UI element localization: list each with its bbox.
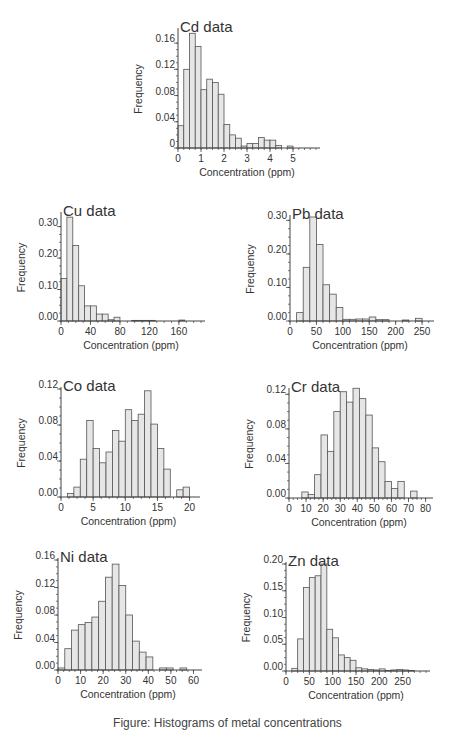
chart-title: Pb data xyxy=(292,205,344,222)
y-axis-label: Frequency xyxy=(12,589,24,639)
histogram-bar xyxy=(236,138,242,148)
bars xyxy=(292,564,414,671)
chart-title: Cu data xyxy=(63,202,116,219)
y-tick-label: 0.12 xyxy=(156,59,176,70)
y-axis-label: Frequency xyxy=(15,417,27,467)
histogram-bar xyxy=(67,217,73,321)
histogram-bar xyxy=(201,90,207,148)
y-tick-label: 0.12 xyxy=(36,578,56,589)
histogram-bar xyxy=(327,451,333,498)
x-tick-label: 120 xyxy=(141,326,158,337)
histogram-bar xyxy=(125,410,131,497)
x-tick-label: 100 xyxy=(334,326,351,337)
histogram-bar xyxy=(224,124,230,148)
histogram-bar xyxy=(303,267,310,321)
x-tick-label: 2 xyxy=(221,153,227,164)
x-axis-label: Concentration (ppm) xyxy=(81,515,177,527)
histogram-bar xyxy=(114,317,120,321)
histogram-bar xyxy=(308,495,314,498)
figure-caption: Figure: Histograms of metal concentratio… xyxy=(0,716,455,730)
histogram-bar xyxy=(316,245,323,321)
y-tick-label: 0.00 xyxy=(36,660,56,671)
histogram-bar xyxy=(72,630,79,670)
x-tick-label: 250 xyxy=(414,326,431,337)
y-tick-label: 0.08 xyxy=(39,415,59,426)
y-tick-label: 0.00 xyxy=(268,311,288,322)
histogram-bar xyxy=(359,399,365,498)
histogram-bar xyxy=(74,487,80,497)
x-tick-label: 20 xyxy=(318,503,330,514)
histogram-bar xyxy=(90,306,96,321)
x-axis-label: Concentration (ppm) xyxy=(311,516,407,528)
histogram-bar xyxy=(207,79,213,148)
histogram-bar xyxy=(297,313,304,321)
x-tick-label: 4 xyxy=(267,153,273,164)
y-axis-label: Frequency xyxy=(15,242,27,292)
x-tick-label: 5 xyxy=(290,153,296,164)
y-tick-label: 0.00 xyxy=(39,487,59,498)
histogram-pb: 0501001502002500.000.100.200.30Pb dataCo… xyxy=(242,197,440,361)
chart-title: Ni data xyxy=(60,548,108,565)
histogram-bar xyxy=(133,641,140,670)
x-tick-label: 40 xyxy=(85,326,97,337)
histogram-bar xyxy=(184,69,190,148)
histogram-bar xyxy=(78,625,85,670)
histogram-bar xyxy=(65,649,72,670)
histogram-zn: 0501001502002500.000.050.100.150.20Zn da… xyxy=(238,544,436,711)
bars xyxy=(302,388,417,498)
histogram-bar xyxy=(353,388,359,498)
x-axis-label: Concentration (ppm) xyxy=(199,166,295,178)
y-tick-label: 0.00 xyxy=(267,488,287,499)
x-tick-label: 20 xyxy=(98,675,110,686)
y-tick-label: 0.04 xyxy=(267,453,287,464)
histogram-bar xyxy=(298,639,304,671)
chart-title: Cd data xyxy=(180,18,233,35)
histogram-cu: 040801201600.000.100.200.30Cu dataConcen… xyxy=(13,194,211,361)
histogram-bar xyxy=(330,294,337,321)
x-tick-label: 0 xyxy=(58,502,64,513)
y-axis-label: Frequency xyxy=(244,243,256,293)
y-tick-label: 0.12 xyxy=(267,384,287,395)
histogram-bar xyxy=(96,314,102,321)
x-tick-label: 0 xyxy=(287,326,293,337)
x-tick-label: 50 xyxy=(304,676,316,687)
y-tick-label: 0.12 xyxy=(39,379,59,390)
x-tick-label: 50 xyxy=(165,675,177,686)
x-tick-label: 0 xyxy=(58,326,64,337)
x-tick-label: 200 xyxy=(387,326,404,337)
histogram-bar xyxy=(119,441,125,497)
histogram-bar xyxy=(398,482,404,498)
histogram-bar xyxy=(87,421,93,498)
x-tick-label: 40 xyxy=(352,503,364,514)
histogram-bar xyxy=(102,314,108,321)
histogram-bar xyxy=(336,308,343,321)
x-tick-label: 60 xyxy=(188,675,200,686)
y-axis-label: Frequency xyxy=(132,63,144,113)
histogram-bar xyxy=(100,463,106,497)
histogram-bar xyxy=(105,577,112,670)
x-tick-label: 10 xyxy=(301,503,313,514)
bars xyxy=(61,217,185,321)
x-tick-label: 3 xyxy=(244,153,250,164)
x-tick-label: 10 xyxy=(75,675,87,686)
x-tick-label: 50 xyxy=(369,503,381,514)
histogram-bar xyxy=(321,564,327,671)
x-axis-label: Concentration (ppm) xyxy=(312,339,408,351)
histogram-bar xyxy=(253,143,259,148)
chart-title: Zn data xyxy=(288,552,340,569)
histogram-bar xyxy=(369,317,376,321)
x-tick-label: 20 xyxy=(184,502,196,513)
histogram-bar xyxy=(151,424,157,497)
y-tick-label: 0.10 xyxy=(264,608,284,619)
y-tick-label: 0 xyxy=(169,138,175,149)
x-tick-label: 60 xyxy=(386,503,398,514)
histogram-bar xyxy=(366,415,372,498)
histogram-bar xyxy=(304,588,310,671)
histogram-bar xyxy=(80,459,86,497)
chart-title: Cr data xyxy=(291,378,341,395)
y-tick-label: 0.08 xyxy=(156,86,176,97)
x-axis-label: Concentration (ppm) xyxy=(80,688,176,700)
histogram-bar xyxy=(259,138,265,148)
histogram-bar xyxy=(126,615,133,670)
x-tick-label: 5 xyxy=(90,502,96,513)
